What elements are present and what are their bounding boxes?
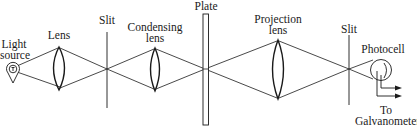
lens-label: Lens: [46, 30, 72, 41]
lens-icon: [54, 47, 65, 90]
light-source-label-line2: source: [0, 50, 28, 61]
photocell-icon: [371, 60, 399, 97]
condensing-lens-label-line2: lens: [126, 33, 184, 44]
plate-icon: [203, 14, 209, 125]
plate-label: Plate: [192, 1, 220, 12]
condensing-lens-icon: [151, 48, 160, 91]
optical-diagram: Light source Lens Slit Condensing lens P…: [0, 0, 417, 131]
photocell-label: Photocell: [358, 44, 408, 55]
condensing-lens-label: Condensing lens: [126, 22, 184, 44]
arrow-icons: [395, 86, 402, 99]
light-rays: [17, 41, 373, 98]
light-source-label: Light source: [0, 39, 28, 61]
projection-lens-label-line2: lens: [250, 25, 306, 36]
projection-lens-icon: [273, 40, 284, 99]
slit-2-label: Slit: [339, 24, 359, 35]
slit-1-label: Slit: [97, 15, 117, 26]
galvanometer-label: To Galvanometer: [355, 105, 417, 127]
galvanometer-label-line2: Galvanometer: [355, 116, 417, 127]
projection-lens-label: Projection lens: [250, 14, 306, 36]
light-source-icon: [6, 62, 19, 83]
